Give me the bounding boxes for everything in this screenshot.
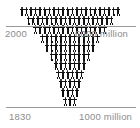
pictogram-row xyxy=(56,70,84,79)
bottom-axis-rule xyxy=(6,107,136,108)
person-icon xyxy=(72,97,77,106)
pictogram-row xyxy=(45,43,96,52)
population-pictogram-chart: 2000 6000 million 1830 1000 million xyxy=(0,0,140,128)
pictogram-pyramid xyxy=(0,7,140,106)
pictogram-row xyxy=(54,61,86,70)
pictogram-row xyxy=(49,52,90,61)
person-icon xyxy=(77,79,82,88)
top-year-label: 2000 xyxy=(5,29,27,39)
pictogram-row xyxy=(61,88,79,97)
bottom-value-label: 1000 million xyxy=(79,112,132,122)
top-value-label: 6000 million xyxy=(75,29,128,39)
person-icon xyxy=(116,7,121,16)
pictogram-row xyxy=(63,97,77,106)
person-icon xyxy=(109,16,114,25)
pictogram-row xyxy=(19,7,120,16)
person-icon xyxy=(91,43,96,52)
pictogram-row xyxy=(59,79,82,88)
person-icon xyxy=(86,52,91,61)
pictogram-row xyxy=(26,16,113,25)
top-axis-rule xyxy=(6,26,136,27)
bottom-year-label: 1830 xyxy=(9,112,31,122)
person-icon xyxy=(79,70,84,79)
person-icon xyxy=(75,88,80,97)
person-icon xyxy=(81,61,86,70)
